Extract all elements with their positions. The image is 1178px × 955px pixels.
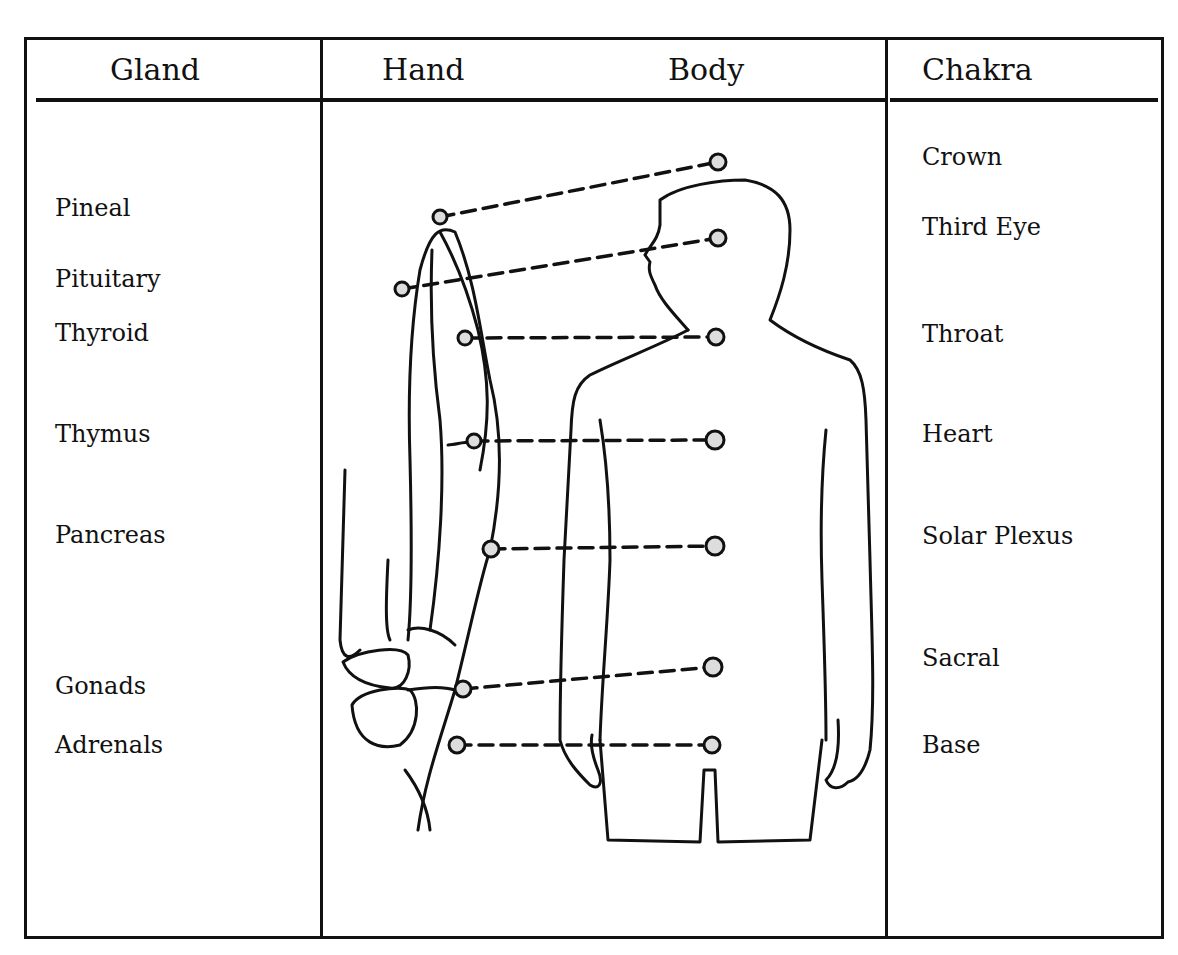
hand-point-pancreas (483, 541, 499, 557)
hand-point-thymus (467, 434, 481, 448)
body-point-solar-plexus (706, 537, 724, 555)
hand-point-pineal (433, 210, 447, 224)
body-point-sacral (704, 658, 722, 676)
body-point-third-eye (710, 230, 726, 246)
body-point-crown (710, 154, 726, 170)
body-point-base (704, 737, 720, 753)
hand-body-illustration (0, 0, 1178, 955)
hand-point-thyroid (458, 331, 472, 345)
hand-point-adrenals (449, 737, 465, 753)
body-point-heart (706, 431, 724, 449)
body-point-throat (708, 329, 724, 345)
hand-drawing (340, 230, 499, 830)
hand-point-pituitary (395, 282, 409, 296)
hand-point-gonads (455, 681, 471, 697)
